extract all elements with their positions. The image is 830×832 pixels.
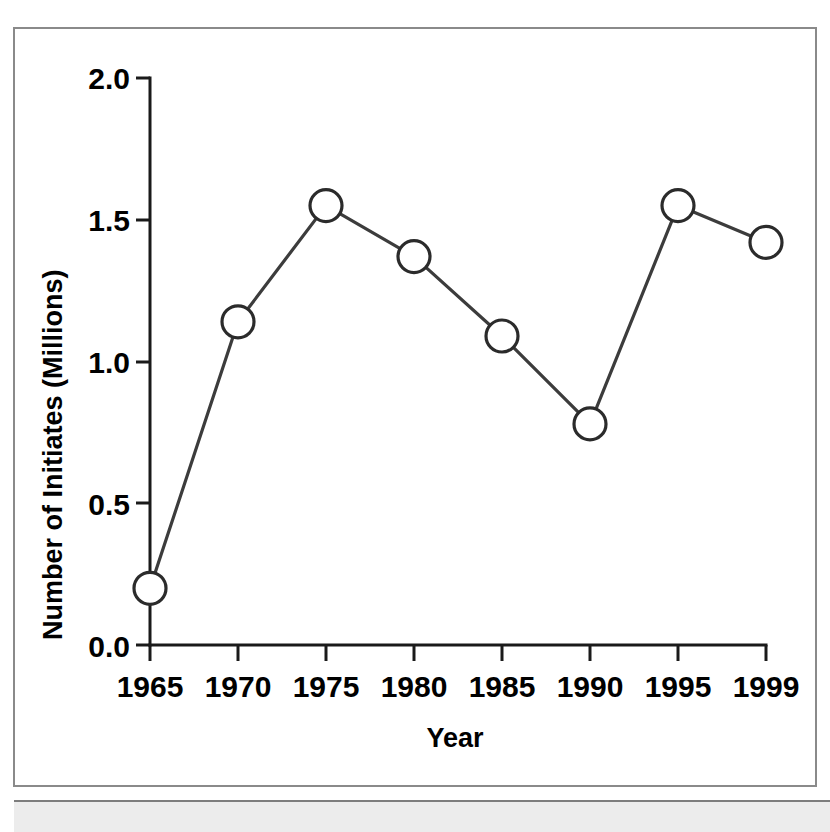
data-point-1970: [222, 306, 254, 338]
chart-svg: Number of Initiates (Millions) 2.0 1.5 1…: [0, 0, 830, 832]
y-tick-label-2-0: 2.0: [88, 62, 130, 95]
data-point-1965: [134, 572, 166, 604]
data-point-1985: [486, 320, 518, 352]
y-tick-label-1-5: 1.5: [88, 204, 130, 237]
y-tick-label-0-0: 0.0: [88, 630, 130, 663]
data-point-1980: [398, 241, 430, 273]
y-tick-label-1-0: 1.0: [88, 346, 130, 379]
y-axis-title: Number of Initiates (Millions): [38, 269, 68, 640]
data-point-1995: [662, 190, 694, 222]
x-tick-label-1995: 1995: [645, 670, 712, 703]
figure-page: Number of Initiates (Millions) 2.0 1.5 1…: [0, 0, 830, 832]
page-bottom-strip: [14, 800, 830, 832]
series-line-number-of-initiates: [150, 206, 766, 589]
line-chart: Number of Initiates (Millions) 2.0 1.5 1…: [0, 0, 830, 832]
series-markers: [134, 190, 782, 605]
x-tick-label-1990: 1990: [557, 670, 624, 703]
x-tick-label-1970: 1970: [205, 670, 272, 703]
x-tick-label-1985: 1985: [469, 670, 536, 703]
x-tick-label-1965: 1965: [117, 670, 184, 703]
data-point-1999: [750, 226, 782, 258]
x-tick-label-1980: 1980: [381, 670, 448, 703]
data-point-1975: [310, 190, 342, 222]
data-point-1990: [574, 408, 606, 440]
x-axis-title: Year: [426, 723, 484, 753]
y-tick-label-0-5: 0.5: [88, 488, 130, 521]
x-tick-label-1975: 1975: [293, 670, 360, 703]
x-tick-label-1999: 1999: [733, 670, 800, 703]
